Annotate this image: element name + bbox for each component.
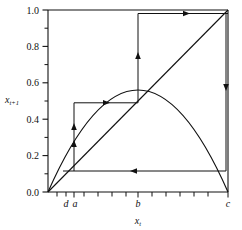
cobweb-figure: 0.0 0.2 0.4 0.6 0.8 1.0 d a b c xt xt+1 bbox=[0, 0, 242, 230]
x-tick-label-a: a bbox=[73, 198, 78, 209]
cobweb-path bbox=[63, 14, 228, 172]
x-tick-label-d: d bbox=[64, 198, 70, 209]
x-tick-label-b: b bbox=[136, 198, 141, 209]
arrow-up-at-a-upper bbox=[71, 123, 77, 130]
y-tick-label-0.0: 0.0 bbox=[27, 187, 40, 198]
x-axis-label: xt bbox=[134, 215, 141, 227]
cobweb-plot-svg: 0.0 0.2 0.4 0.6 0.8 1.0 d a b c xt xt+1 bbox=[0, 0, 242, 230]
y-tick-label-0.4: 0.4 bbox=[27, 114, 40, 125]
y-tick-label-0.2: 0.2 bbox=[27, 150, 40, 161]
y-tick-label-1.0: 1.0 bbox=[27, 5, 40, 16]
y-tick-label-0.6: 0.6 bbox=[27, 77, 40, 88]
y-axis-label-sub: t+1 bbox=[9, 99, 18, 106]
arrow-left-at-bottom bbox=[130, 168, 137, 174]
y-tick-label-0.8: 0.8 bbox=[27, 41, 40, 52]
y-axis-label: xt+1 bbox=[4, 94, 19, 106]
arrow-right-at-top bbox=[183, 11, 190, 17]
x-ticks bbox=[57, 192, 228, 198]
arrow-up-at-a-lower bbox=[71, 140, 77, 147]
x-tick-label-c: c bbox=[226, 198, 231, 209]
logistic-map-curve bbox=[48, 90, 228, 192]
x-axis-label-sub: t bbox=[139, 220, 141, 227]
arrow-up-at-b bbox=[135, 52, 141, 59]
